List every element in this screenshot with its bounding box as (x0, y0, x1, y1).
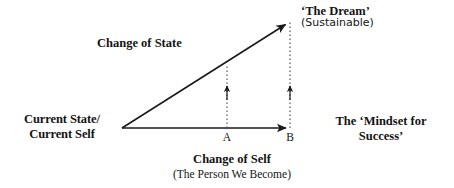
origin-label: Current State/ Current Self (8, 112, 116, 142)
point-b-label: B (284, 131, 296, 145)
horizontal-axis-label: Change of Self (172, 152, 292, 167)
origin-label-line1: Current State/ (8, 112, 116, 127)
origin-label-line2: Current Self (8, 127, 116, 142)
dream-sublabel: (Sustainable) (301, 17, 374, 30)
mindset-label-line1: The ‘Mindset for (316, 114, 446, 129)
mindset-label: The ‘Mindset for Success’ (316, 114, 446, 144)
change-of-state-diagram: Current State/ Current Self Change of St… (0, 0, 454, 188)
point-a-label: A (221, 131, 233, 145)
horizontal-axis-sublabel: (The Person We Become) (148, 168, 316, 182)
diagonal-axis-label: Change of State (97, 36, 182, 51)
mindset-label-line2: Success’ (316, 129, 446, 144)
